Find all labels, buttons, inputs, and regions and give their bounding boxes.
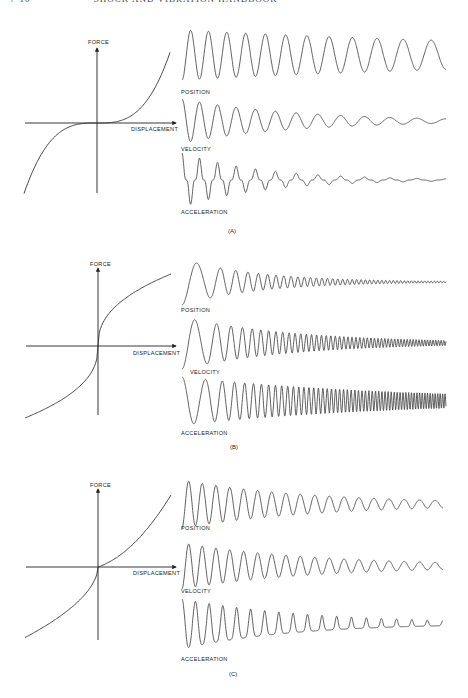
force-axis-label: FORCE [90,482,111,488]
velocity-trace [182,99,446,141]
acceleration-label: ACCELERATION [181,656,228,662]
acceleration-trace [182,377,446,424]
position-trace [182,481,443,528]
position-trace [182,263,446,305]
velocity-waveform: VELOCITY [181,544,443,594]
panel-caption: (C) [229,671,237,677]
acceleration-waveform: ACCELERATION [181,153,446,215]
panel-c: FORCEDISPLACEMENTPOSITIONVELOCITYACCELER… [25,481,443,677]
velocity-waveform: VELOCITY [181,99,446,152]
position-waveform: POSITION [181,481,443,531]
velocity-label: VELOCITY [181,588,211,594]
acceleration-label: ACCELERATION [181,209,228,215]
panel-caption: (A) [228,228,236,234]
acceleration-waveform: ACCELERATION [181,599,443,662]
acceleration-trace [182,599,443,648]
displacement-axis-label: DISPLACEMENT [133,570,180,576]
acceleration-waveform: ACCELERATION [181,377,446,436]
position-trace [182,31,446,81]
position-label: POSITION [181,525,210,531]
velocity-trace [182,320,446,369]
panel-b: FORCEDISPLACEMENTPOSITIONVELOCITYACCELER… [25,261,446,450]
panel-a: FORCEDISPLACEMENTPOSITIONVELOCITYACCELER… [24,31,446,235]
position-waveform: POSITION [181,263,446,313]
force-axis-label: FORCE [88,39,109,45]
position-waveform: POSITION [181,31,446,96]
velocity-trace [182,544,443,589]
force-displacement-plot: FORCEDISPLACEMENT [25,482,180,640]
position-label: POSITION [181,89,210,95]
force-axis-label: FORCE [90,261,111,267]
velocity-label: VELOCITY [181,146,211,152]
displacement-axis-label: DISPLACEMENT [131,126,178,132]
acceleration-label: ACCELERATION [181,430,228,436]
displacement-axis-label: DISPLACEMENT [133,350,180,356]
acceleration-trace [182,153,446,204]
panel-caption: (B) [230,444,238,450]
position-label: POSITION [181,307,210,313]
velocity-label: VELOCITY [190,369,220,375]
force-displacement-plot: FORCEDISPLACEMENT [25,261,180,418]
figure: FORCEDISPLACEMENTPOSITIONVELOCITYACCELER… [0,0,468,698]
force-displacement-plot: FORCEDISPLACEMENT [24,39,178,194]
velocity-waveform: VELOCITY [182,320,446,375]
